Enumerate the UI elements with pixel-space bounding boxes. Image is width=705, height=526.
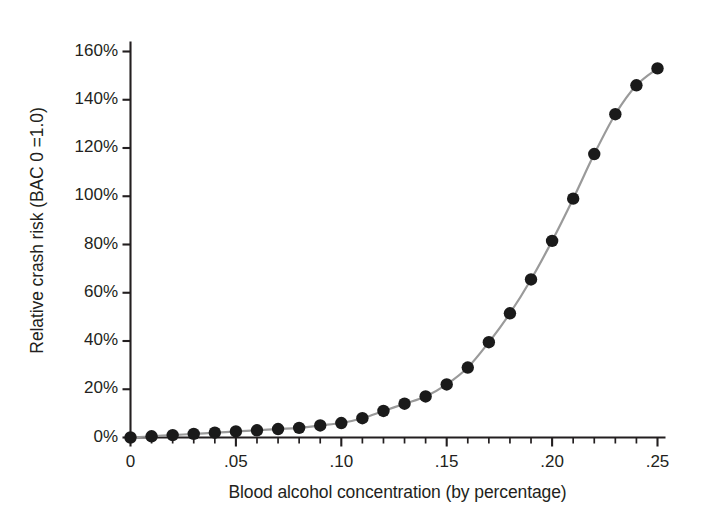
data-point-marker xyxy=(546,235,558,247)
y-tick-label: 0% xyxy=(40,427,118,447)
data-point-marker xyxy=(651,62,663,74)
data-point-marker xyxy=(483,336,495,348)
y-tick-label: 40% xyxy=(40,330,118,350)
data-point-marker xyxy=(356,412,368,424)
data-point-marker xyxy=(335,417,347,429)
data-point-marker xyxy=(145,430,157,442)
x-tick-label: .20 xyxy=(522,452,582,472)
data-point-marker xyxy=(188,428,200,440)
data-markers xyxy=(124,62,663,444)
axis-lines xyxy=(131,42,666,438)
data-point-marker xyxy=(419,390,431,402)
y-tick-label: 160% xyxy=(40,41,118,61)
data-point-marker xyxy=(398,398,410,410)
data-point-marker xyxy=(630,79,642,91)
data-point-marker xyxy=(272,423,284,435)
data-point-marker xyxy=(377,405,389,417)
plot-area xyxy=(0,0,705,526)
data-point-marker xyxy=(525,273,537,285)
data-line xyxy=(131,68,658,437)
data-point-marker xyxy=(462,361,474,373)
x-tick-label: .05 xyxy=(206,452,266,472)
data-point-marker xyxy=(609,108,621,120)
data-point-marker xyxy=(124,431,136,443)
data-point-marker xyxy=(441,378,453,390)
y-tick-label: 20% xyxy=(40,378,118,398)
y-tick-label: 60% xyxy=(40,282,118,302)
data-point-marker xyxy=(166,429,178,441)
data-point-marker xyxy=(230,425,242,437)
data-point-marker xyxy=(588,148,600,160)
x-tick-label: .10 xyxy=(311,452,371,472)
y-tick-label: 100% xyxy=(40,185,118,205)
axis-ticks xyxy=(123,52,658,447)
x-tick-label: .15 xyxy=(417,452,477,472)
data-point-marker xyxy=(567,192,579,204)
y-tick-label: 140% xyxy=(40,89,118,109)
y-tick-label: 80% xyxy=(40,234,118,254)
data-point-marker xyxy=(209,426,221,438)
data-point-marker xyxy=(504,307,516,319)
data-point-marker xyxy=(251,424,263,436)
series-line-relative-crash-risk xyxy=(131,68,658,437)
x-tick-label: 0 xyxy=(101,452,161,472)
y-tick-label: 120% xyxy=(40,137,118,157)
x-tick-label: .25 xyxy=(628,452,688,472)
data-point-marker xyxy=(293,422,305,434)
chart-figure: Relative crash risk (BAC 0 =1.0) Blood a… xyxy=(0,0,705,526)
data-point-marker xyxy=(314,419,326,431)
